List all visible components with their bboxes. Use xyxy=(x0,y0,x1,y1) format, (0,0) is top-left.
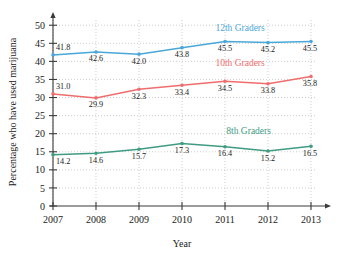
data-point-value-label: 17.3 xyxy=(175,146,189,155)
data-point-value-label: 14.2 xyxy=(56,157,70,166)
data-point-marker xyxy=(223,40,227,44)
data-point-value-label: 31.0 xyxy=(56,82,70,91)
data-point-marker xyxy=(180,83,184,87)
data-point-value-label: 42.0 xyxy=(132,57,146,66)
data-point-marker xyxy=(137,52,141,56)
data-point-labels: 41.842.642.043.845.545.245.531.029.932.3… xyxy=(56,43,317,166)
y-tick-label: 45 xyxy=(35,38,45,49)
x-tick-label: 2009 xyxy=(129,214,149,225)
data-point-value-label: 29.9 xyxy=(89,100,103,109)
x-tick-label: 2011 xyxy=(215,214,235,225)
y-axis-arrowhead xyxy=(50,12,55,18)
y-tick-labels: 05101520253035404550 xyxy=(35,20,57,212)
y-tick-label: 40 xyxy=(35,56,45,67)
y-tick-label: 50 xyxy=(35,20,45,31)
data-point-value-label: 14.6 xyxy=(89,156,103,165)
y-tick-label: 5 xyxy=(40,183,45,194)
data-point-marker xyxy=(137,147,141,151)
data-point-marker xyxy=(309,75,313,79)
data-point-marker xyxy=(137,87,141,91)
data-point-marker xyxy=(51,153,55,157)
y-tick-label: 35 xyxy=(35,74,45,85)
y-axis-title: Percentage who have used marijuana xyxy=(7,37,18,186)
data-point-marker xyxy=(94,151,98,155)
data-point-marker xyxy=(266,82,270,86)
y-tick-label: 30 xyxy=(35,92,45,103)
x-tick-label: 2012 xyxy=(258,214,278,225)
data-point-marker xyxy=(309,145,313,149)
marijuana-usage-line-chart: 05101520253035404550 2007200820092010201… xyxy=(0,0,342,271)
data-point-marker xyxy=(223,79,227,83)
y-tick-label: 0 xyxy=(40,201,45,212)
legend-label-3: 8th Graders xyxy=(226,126,271,136)
data-point-value-label: 32.3 xyxy=(132,92,146,101)
legend-label-2: 10th Graders xyxy=(215,58,265,68)
data-point-value-label: 34.5 xyxy=(218,84,232,93)
data-point-value-label: 16.5 xyxy=(303,149,317,158)
y-tick-label: 25 xyxy=(35,110,45,121)
data-point-value-label: 45.5 xyxy=(303,44,317,53)
data-point-marker xyxy=(51,92,55,96)
data-point-value-label: 33.8 xyxy=(261,86,275,95)
y-tick-label: 15 xyxy=(35,146,45,157)
data-point-marker xyxy=(266,41,270,45)
data-point-marker xyxy=(94,96,98,100)
y-tick-label: 10 xyxy=(35,164,45,175)
data-point-marker xyxy=(94,50,98,54)
legend-label-1: 12th Graders xyxy=(215,23,265,33)
data-point-marker xyxy=(180,46,184,50)
data-point-value-label: 41.8 xyxy=(56,43,70,52)
data-point-marker xyxy=(180,142,184,146)
data-point-value-label: 16.4 xyxy=(218,149,232,158)
data-point-marker xyxy=(223,145,227,149)
data-point-marker xyxy=(266,149,270,153)
data-point-value-label: 35.8 xyxy=(303,79,317,88)
data-point-marker xyxy=(51,53,55,57)
x-tick-label: 2007 xyxy=(43,214,63,225)
x-axis-arrowhead xyxy=(325,203,331,208)
x-tick-label: 2010 xyxy=(172,214,192,225)
data-point-value-label: 15.2 xyxy=(261,154,275,163)
chart-canvas: 05101520253035404550 2007200820092010201… xyxy=(0,0,342,271)
data-point-value-label: 33.4 xyxy=(175,88,189,97)
y-tick-label: 20 xyxy=(35,128,45,139)
data-point-value-label: 15.7 xyxy=(132,152,146,161)
data-point-value-label: 45.5 xyxy=(218,44,232,53)
data-point-marker xyxy=(309,40,313,44)
x-tick-label: 2013 xyxy=(301,214,321,225)
data-point-value-label: 45.2 xyxy=(261,45,275,54)
x-axis-title: Year xyxy=(173,238,192,249)
data-point-value-label: 42.6 xyxy=(89,54,103,63)
data-point-value-label: 43.8 xyxy=(175,50,189,59)
x-tick-label: 2008 xyxy=(86,214,106,225)
